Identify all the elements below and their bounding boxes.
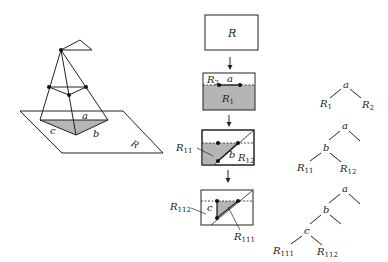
tree-leaf-r112: R112 xyxy=(316,246,338,259)
vertex-dot xyxy=(47,85,51,89)
tree-1: a R1 R2 xyxy=(319,79,374,112)
edge-label-a: a xyxy=(82,110,88,121)
vertex-dot xyxy=(84,85,88,89)
vertex-dot xyxy=(67,93,71,97)
vertex-dot xyxy=(215,216,219,220)
tree-leaf-r1: R1 xyxy=(319,98,332,111)
label-r11: R11 xyxy=(175,142,192,155)
vertex-dot xyxy=(216,141,220,145)
tree-edge xyxy=(310,215,321,224)
tree-edge xyxy=(350,89,361,98)
edge-label-c: c xyxy=(50,125,56,136)
tree-edge xyxy=(291,236,302,244)
region-steps: R R2 a R1 xyxy=(169,15,258,244)
viewpoint-flag xyxy=(61,40,92,50)
perspective-view: a c b R xyxy=(20,40,163,153)
tree-node-a: a xyxy=(343,79,349,90)
vertex-dot xyxy=(216,159,220,163)
tree-edge xyxy=(349,194,360,204)
frustum-edge xyxy=(40,50,61,120)
bsp-trees: a R1 R2 a b R11 R12 a b c xyxy=(272,79,374,259)
tree-edge xyxy=(330,215,341,224)
tree-3: a b c R111 R112 xyxy=(272,183,360,259)
tree-edge xyxy=(329,131,340,140)
leader-line xyxy=(228,207,240,230)
edge-label-b: b xyxy=(93,128,99,139)
label-r112: R112 xyxy=(169,201,191,214)
tree-node-b: b xyxy=(323,204,329,215)
vertex-dot xyxy=(236,141,240,145)
tree-edge xyxy=(310,153,321,161)
vertex-dot xyxy=(238,83,242,87)
label-r12: R12 xyxy=(237,152,254,165)
label-b: b xyxy=(229,149,235,160)
region-label: R xyxy=(227,27,236,40)
tree-node-a: a xyxy=(342,183,348,194)
tree-leaf-r2: R2 xyxy=(361,99,374,112)
tree-leaf-r12: R12 xyxy=(339,163,356,176)
vertex-dot xyxy=(215,199,219,203)
label-a: a xyxy=(227,73,233,84)
tree-leaf-r111: R111 xyxy=(272,245,294,258)
tree-node-b: b xyxy=(323,142,329,153)
tree-edge xyxy=(349,131,360,141)
label-c: c xyxy=(207,202,213,213)
leader-line xyxy=(191,208,206,214)
plane-r xyxy=(20,111,163,153)
tree-leaf-r11: R11 xyxy=(296,162,313,175)
label-r111: R111 xyxy=(233,231,255,244)
plane-label: R xyxy=(129,138,141,151)
tree-node-c: c xyxy=(304,225,310,236)
tree-edge xyxy=(311,236,322,245)
tree-edge xyxy=(330,89,341,98)
tree-node-a: a xyxy=(342,120,348,131)
vertex-dot xyxy=(236,199,240,203)
tree-2: a b R11 R12 xyxy=(296,120,360,176)
tree-edge xyxy=(329,194,340,203)
bsp-diagram: a c b R R R2 a R1 xyxy=(0,0,388,262)
apex-dot xyxy=(59,48,63,52)
tree-edge xyxy=(330,153,341,162)
